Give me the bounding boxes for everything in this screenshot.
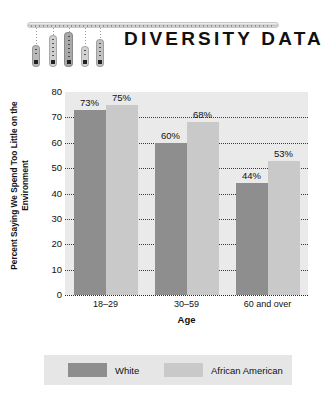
bar-african-american-0 <box>106 105 138 295</box>
bar-white-2 <box>236 183 268 295</box>
hanger-string-5 <box>100 28 101 39</box>
y-tick-70: 70 <box>32 112 62 122</box>
pill-knob <box>51 60 55 64</box>
legend-label-1: African American <box>211 365 283 376</box>
legend-item-white: White <box>68 363 139 377</box>
pill-knob <box>34 60 38 64</box>
x-tick-2: 60 and over <box>227 299 308 309</box>
bar-value-label-2-0: 44% <box>232 170 272 181</box>
bar-white-0 <box>74 110 106 295</box>
y-tick-20: 20 <box>32 239 62 249</box>
rail-dots-decoration <box>31 25 275 27</box>
page-header: DIVERSITY DATA <box>0 0 336 78</box>
bar-african-american-2 <box>268 161 300 295</box>
y-tick-10: 10 <box>32 265 62 275</box>
legend-item-african-american: African American <box>164 363 283 377</box>
bar-white-1 <box>155 143 187 295</box>
x-tick-0: 18–29 <box>65 299 146 309</box>
pill-dots <box>68 36 70 57</box>
bar-value-label-1-1: 68% <box>183 109 223 120</box>
pill-knob <box>83 60 87 64</box>
pill-dots <box>52 39 54 57</box>
pill-dots <box>84 50 86 57</box>
x-tick-1: 30–59 <box>146 299 227 309</box>
ornament-pill-5 <box>96 39 104 67</box>
gridline-0 <box>65 295 308 296</box>
bar-value-label-2-1: 53% <box>264 148 304 159</box>
bar-value-label-0-1: 75% <box>102 92 142 103</box>
pill-knob <box>67 60 71 64</box>
y-tick-80: 80 <box>32 87 62 97</box>
ornament-pill-4 <box>81 46 89 67</box>
bar-african-american-1 <box>187 122 219 295</box>
y-tick-60: 60 <box>32 138 62 148</box>
ornament-pill-2 <box>49 35 57 67</box>
ornament-pill-3 <box>64 32 73 67</box>
hanger-string-2 <box>53 28 54 35</box>
ornament-pill-1 <box>32 45 40 67</box>
y-tick-40: 40 <box>32 189 62 199</box>
pill-dots <box>99 43 101 57</box>
y-tick-30: 30 <box>32 214 62 224</box>
y-axis-label: Percent Saying We Spend Too Little on th… <box>9 83 30 288</box>
pill-knob <box>98 60 102 64</box>
plot-area: 73%75%60%68%44%53% <box>65 92 308 295</box>
hanger-string-1 <box>36 28 37 45</box>
legend-swatch-1 <box>164 363 203 377</box>
pill-dots <box>35 49 37 57</box>
legend: WhiteAfrican American <box>44 355 292 385</box>
y-tick-50: 50 <box>32 163 62 173</box>
bar-value-label-1-0: 60% <box>151 130 191 141</box>
legend-swatch-0 <box>68 363 107 377</box>
chart-container: Percent Saying We Spend Too Little on th… <box>0 80 336 320</box>
y-tick-0: 0 <box>32 290 62 300</box>
page-title: DIVERSITY DATA <box>124 28 324 50</box>
legend-label-0: White <box>115 365 139 376</box>
x-axis-label: Age <box>65 314 308 325</box>
hanger-string-4 <box>85 28 86 46</box>
